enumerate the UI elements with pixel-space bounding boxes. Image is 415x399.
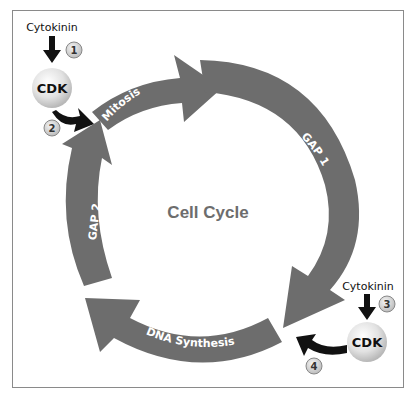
segment-gap2: GAP 2 <box>62 120 112 286</box>
down-arrow-icon <box>43 36 61 63</box>
curved-arrow-icon <box>296 334 347 356</box>
segment-dna-synthesis: DNA Synthesis <box>85 298 282 363</box>
cdk-label-2: CDK <box>352 335 383 350</box>
cdk-label-1: CDK <box>37 81 68 96</box>
gap1-arrow-shape <box>200 60 359 328</box>
segment-gap1: GAP 1 <box>200 60 359 328</box>
step-number-2: 2 <box>49 123 56 134</box>
cell-cycle-diagram: Mitosis GAP 1 DNA Synthesis GAP 2 Cell C… <box>0 0 415 399</box>
cytokinin-label-2: Cytokinin <box>342 280 394 293</box>
down-arrow-icon <box>358 294 376 320</box>
step-number-4: 4 <box>311 361 318 372</box>
regulator-top-left: Cytokinin 1 CDK 2 <box>26 21 94 136</box>
gap2-arrow-shape <box>62 120 112 286</box>
step-number-3: 3 <box>384 299 391 310</box>
center-title: Cell Cycle <box>167 203 248 222</box>
dna-synthesis-arrow-shape <box>85 298 282 363</box>
step-number-1: 1 <box>71 45 78 56</box>
cytokinin-label-1: Cytokinin <box>26 21 78 34</box>
